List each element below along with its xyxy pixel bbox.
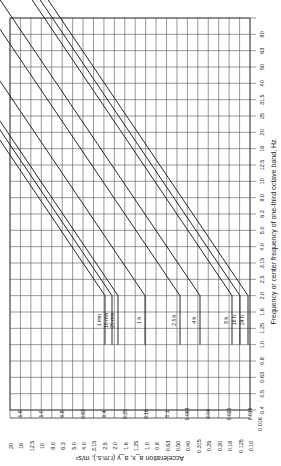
duration-label: 2.5 h — [171, 314, 177, 325]
acceleration-tick-label: 10 — [39, 443, 45, 449]
exposure-curve — [0, 0, 118, 345]
duration-label: 4 h — [191, 316, 197, 323]
frequency-tick-label: 1.0 — [259, 341, 265, 349]
acceleration-tick-label: 1.6 — [123, 442, 129, 450]
frequency-tick-label: 2.0 — [259, 292, 265, 300]
frequency-tick-label: 5.0 — [259, 227, 265, 235]
duration-label: 24 h — [239, 315, 245, 325]
frequency-tick-label: 31.5 — [259, 94, 265, 105]
frequency-tick-label: 12.5 — [259, 160, 265, 171]
limit-value-label: 1.6 — [17, 410, 23, 417]
limit-value-label: 0.25 — [122, 409, 128, 419]
frequency-tick-label: 4.0 — [259, 243, 265, 251]
x-axis-title: Frequency or center frequency of one-thi… — [270, 139, 278, 325]
exposure-curve — [0, 0, 248, 345]
exposure-curve — [0, 0, 200, 345]
exposure-curve — [0, 0, 105, 345]
exposure-curve — [0, 0, 112, 345]
frequency-tick-label: 0.4 — [259, 406, 265, 414]
frequency-tick-label: 1.6 — [259, 308, 265, 316]
acceleration-tick-label: 5.0 — [71, 442, 77, 450]
frequency-tick-label: 20 — [259, 129, 265, 135]
limit-value-label: 0.04 — [205, 409, 211, 419]
duration-label: 1 h — [136, 316, 142, 323]
frequency-tick-label: 16 — [259, 146, 265, 152]
acceleration-tick-label: 0.16 — [227, 441, 233, 452]
acceleration-tick-label: 2.5 — [102, 442, 108, 450]
frequency-tick-label: 25 — [259, 113, 265, 119]
acceleration-tick-label: 0.20 — [217, 441, 223, 452]
frequency-tick-label: 0.016 — [257, 417, 263, 431]
acceleration-tick-label: 20 — [8, 443, 14, 449]
acceleration-tick-label: 2.0 — [112, 442, 118, 450]
acceleration-tick-label: 0.10 — [248, 441, 254, 452]
limit-value-label: 0.16 — [143, 409, 149, 419]
frequency-tick-label: 80 — [259, 31, 265, 37]
acceleration-tick-label: 4.0 — [81, 442, 87, 450]
frequency-tick-label: 63 — [259, 48, 265, 54]
exposure-curve — [0, 0, 240, 345]
acceleration-tick-label: 0.25 — [206, 441, 212, 452]
y-axis-title: Acceleration a_x, a_y (r.m.s.), m/s² — [75, 454, 184, 462]
frequency-tick-label: 8.0 — [259, 194, 265, 202]
limit-value-label: 0.1 — [164, 410, 170, 417]
limit-value-label: 0.63 — [80, 409, 86, 419]
frequency-tick-label: 1.25 — [259, 323, 265, 334]
frequency-tick-label: 40 — [259, 80, 265, 86]
limit-value-label: 0.4 — [101, 410, 107, 417]
limit-value-label: 1.0 — [38, 410, 44, 417]
frequency-tick-label: 50 — [259, 64, 265, 70]
acceleration-tick-label: 0.315 — [196, 439, 202, 453]
acceleration-tick-label: 0.50 — [175, 441, 181, 452]
frequency-tick-label: 10 — [259, 178, 265, 184]
acceleration-tick-label: 3.15 — [91, 441, 97, 452]
limit-value-label: 0.8 — [59, 410, 65, 417]
limit-value-label: 0.063 — [184, 408, 190, 421]
duration-label: 8 h — [223, 316, 229, 323]
limit-value-label: 0.025 — [226, 408, 232, 421]
frequency-tick-label: 0.8 — [259, 357, 265, 365]
frequency-tick-label: 0.5 — [259, 390, 265, 398]
exposure-curve — [0, 0, 180, 345]
frequency-tick-label: 0.63 — [259, 372, 265, 383]
duration-label: 1 min — [96, 314, 102, 326]
acceleration-tick-label: 8.0 — [50, 442, 56, 450]
acceleration-tick-label: 0.63 — [165, 441, 171, 452]
acceleration-tick-label: 1.25 — [133, 441, 139, 452]
acceleration-tick-label: 16 — [18, 443, 24, 449]
frequency-tick-label: 2.5 — [259, 276, 265, 284]
vibration-exposure-chart: 201612.5108.06.35.04.03.152.52.01.61.251… — [0, 0, 281, 466]
acceleration-tick-label: 12.5 — [29, 441, 35, 452]
acceleration-tick-label: 6.3 — [60, 442, 66, 450]
frequency-tick-label: 3.15 — [259, 258, 265, 269]
duration-label: 25 min — [109, 312, 115, 327]
duration-label: 16 h — [231, 315, 237, 325]
acceleration-tick-label: 0.40 — [185, 441, 191, 452]
acceleration-tick-label: 0.8 — [154, 442, 160, 450]
acceleration-tick-label: 1.0 — [144, 442, 150, 450]
frequency-tick-label: 6.3 — [259, 210, 265, 218]
acceleration-tick-label: 0.125 — [238, 439, 244, 453]
limit-value-label: 0.016 — [247, 408, 253, 421]
